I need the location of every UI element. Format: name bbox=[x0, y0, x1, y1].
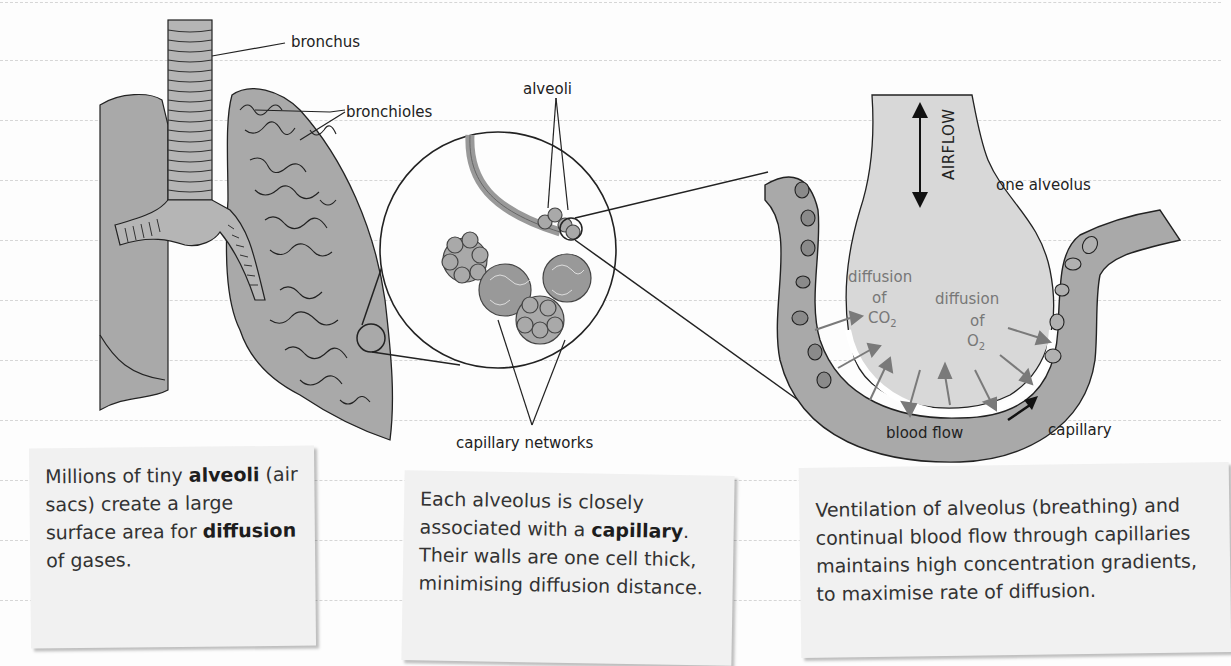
card-text: Ventilation of alveolus (breathing) and … bbox=[815, 494, 1197, 605]
label-diffusion-o2-line2: of bbox=[970, 312, 984, 330]
label-one-alveolus: one alveolus bbox=[996, 176, 1091, 194]
card-bold-capillary: capillary bbox=[591, 518, 683, 542]
label-capillary: capillary bbox=[1048, 421, 1112, 439]
label-o2: O2 bbox=[967, 332, 985, 352]
label-diffusion-co2-line2: of bbox=[872, 289, 886, 307]
label-alveoli: alveoli bbox=[523, 80, 572, 98]
alveoli-card: Millions of tiny alveoli (air sacs) crea… bbox=[29, 446, 316, 649]
label-bronchioles: bronchioles bbox=[346, 103, 432, 121]
label-diffusion-o2-line1: diffusion bbox=[935, 290, 999, 308]
label-blood-flow: blood flow bbox=[886, 424, 963, 442]
label-co2: CO2 bbox=[868, 309, 897, 329]
card-text: Millions of tiny bbox=[45, 464, 189, 488]
capillary-card: Each alveolus is closely associated with… bbox=[401, 470, 734, 666]
ventilation-card: Ventilation of alveolus (breathing) and … bbox=[799, 462, 1231, 658]
label-bronchus: bronchus bbox=[291, 33, 360, 51]
card-bold-diffusion: diffusion bbox=[203, 519, 297, 542]
label-capillary-networks: capillary networks bbox=[456, 434, 593, 452]
co2-subscript: 2 bbox=[890, 318, 896, 329]
o2-subscript: 2 bbox=[979, 341, 985, 352]
co2-text: CO bbox=[868, 309, 890, 327]
alveoli-zoom-circle bbox=[380, 132, 616, 368]
label-diffusion-co2-line1: diffusion bbox=[848, 268, 912, 286]
left-lung bbox=[100, 95, 168, 410]
o2-text: O bbox=[967, 332, 979, 350]
card-bold-alveoli: alveoli bbox=[189, 463, 260, 486]
card-text: of gases. bbox=[46, 548, 132, 571]
label-airflow: AIRFLOW bbox=[940, 108, 958, 180]
